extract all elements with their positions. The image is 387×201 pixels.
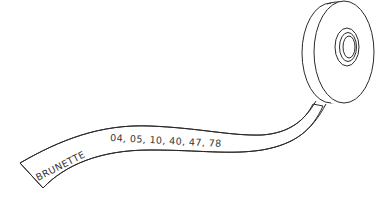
spool — [302, 1, 374, 106]
tape-spool-illustration: BRUNETTE 04, 05, 10, 40, 47, 78 — [0, 0, 387, 201]
illustration-svg: BRUNETTE 04, 05, 10, 40, 47, 78 — [0, 0, 387, 201]
